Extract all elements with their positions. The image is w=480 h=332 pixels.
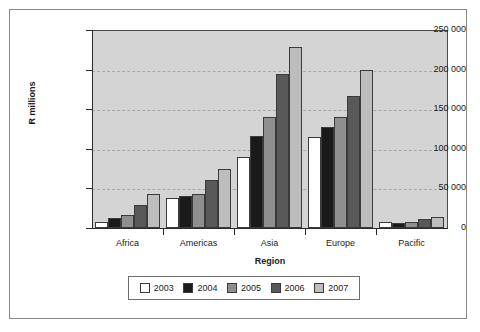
x-axis-category-label: Asia [234, 238, 305, 249]
plot-wrapper: 050 000100 000150 000200 000250 000 Afri… [10, 10, 466, 318]
bar [205, 180, 218, 228]
legend-item: 2003 [140, 283, 174, 293]
bar [95, 222, 108, 228]
legend-item: 2006 [271, 283, 305, 293]
legend-item: 2004 [183, 283, 217, 293]
x-axis-tick [305, 229, 306, 235]
x-axis-tick [376, 229, 377, 235]
y-axis-tick [86, 30, 93, 31]
y-axis-tick-label: 150 000 [394, 104, 466, 113]
bar [166, 198, 179, 228]
bar [218, 169, 231, 228]
bar [392, 223, 405, 228]
legend-label: 2003 [154, 283, 174, 293]
legend-label: 2005 [241, 283, 261, 293]
bar [347, 96, 360, 228]
chart-figure: 050 000100 000150 000200 000250 000 Afri… [9, 9, 467, 319]
y-axis-tick [86, 228, 93, 229]
bar [360, 70, 373, 228]
chart-legend: 20032004200520062007 [128, 276, 360, 300]
legend-swatch-icon [314, 283, 324, 293]
bar [147, 194, 160, 228]
x-axis-category-label: Europe [305, 238, 376, 249]
y-axis-tick-label: 50 000 [394, 183, 466, 192]
bar [276, 74, 289, 228]
y-axis-tick-label: 200 000 [394, 65, 466, 74]
x-axis-category-label: Pacific [376, 238, 447, 249]
y-axis-line [92, 30, 93, 229]
bar [308, 137, 321, 228]
bar [418, 219, 431, 228]
bar [237, 157, 250, 228]
legend-swatch-icon [183, 283, 193, 293]
bar [263, 117, 276, 228]
bar [321, 127, 334, 228]
bar [431, 217, 444, 228]
bar [121, 215, 134, 228]
x-axis-category-label: Americas [163, 238, 234, 249]
legend-swatch-icon [227, 283, 237, 293]
legend-swatch-icon [271, 283, 281, 293]
bar [250, 136, 263, 228]
legend-label: 2006 [285, 283, 305, 293]
x-axis-title: Region [92, 256, 448, 266]
bar [179, 196, 192, 228]
legend-item: 2007 [314, 283, 348, 293]
legend-item: 2005 [227, 283, 261, 293]
bar [289, 47, 302, 228]
y-axis-title: R millions [27, 63, 37, 143]
legend-swatch-icon [140, 283, 150, 293]
y-axis-tick [86, 109, 93, 110]
x-axis-tick [234, 229, 235, 235]
bar [405, 222, 418, 228]
y-axis-tick-label: 250 000 [394, 25, 466, 34]
y-axis-tick-label: 100 000 [394, 144, 466, 153]
bar [379, 222, 392, 228]
legend-label: 2004 [197, 283, 217, 293]
x-axis-tick [163, 229, 164, 235]
x-axis-category-label: Africa [92, 238, 163, 249]
bar [134, 205, 147, 228]
bar [192, 194, 205, 228]
legend-label: 2007 [328, 283, 348, 293]
y-axis-tick [86, 188, 93, 189]
bar [108, 218, 121, 228]
y-axis-tick [86, 70, 93, 71]
bar [334, 117, 347, 228]
y-axis-tick [86, 149, 93, 150]
